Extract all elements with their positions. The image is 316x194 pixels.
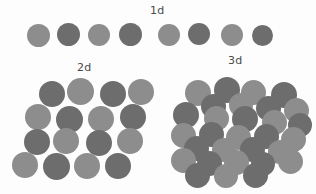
particle [128, 79, 154, 105]
particle [214, 164, 238, 188]
particle [105, 153, 131, 179]
particle [88, 24, 110, 46]
particle [74, 153, 100, 179]
particle [53, 128, 79, 154]
particle [86, 130, 112, 156]
particle [278, 149, 303, 174]
particle [67, 78, 94, 105]
diagram-canvas: 1d 2d 3d [0, 0, 316, 194]
particle [117, 128, 143, 154]
label-2d: 2d [77, 61, 91, 74]
particle [188, 23, 210, 45]
particle [57, 23, 80, 46]
particle [120, 104, 146, 130]
particle [12, 152, 38, 178]
particle [221, 24, 243, 46]
label-3d: 3d [228, 54, 242, 67]
particle [25, 104, 51, 130]
particle [243, 163, 268, 188]
particle [39, 81, 65, 107]
particle [185, 163, 210, 188]
particle [24, 129, 50, 155]
particle [158, 24, 180, 46]
particle [252, 25, 273, 46]
particle [43, 153, 70, 180]
particle [119, 23, 142, 46]
particle [27, 24, 50, 47]
label-1d: 1d [150, 4, 164, 17]
particle [100, 81, 126, 107]
particle [88, 106, 114, 132]
